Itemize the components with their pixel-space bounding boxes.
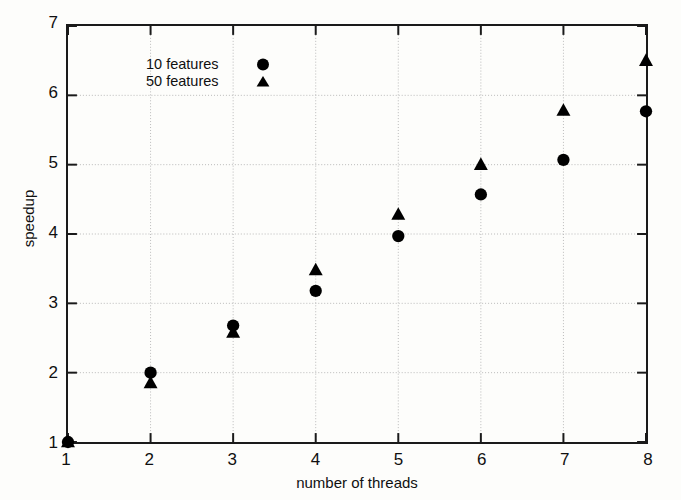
circle-marker-icon: [254, 56, 272, 73]
data-point: [556, 103, 570, 116]
legend-label: 50 features: [146, 73, 219, 90]
x-tick-label: 2: [129, 450, 169, 470]
chart-page: speedup 1234567 10 features50 features 1…: [0, 0, 681, 500]
data-point: [640, 105, 652, 117]
y-tick-label: 7: [12, 13, 58, 33]
x-tick-label: 7: [545, 450, 585, 470]
legend-label: 10 features: [146, 56, 219, 73]
data-point: [309, 263, 323, 276]
data-point: [474, 157, 488, 170]
data-point: [392, 230, 404, 242]
legend-item: 10 features: [146, 56, 278, 73]
y-tick-label: 6: [12, 83, 58, 103]
y-tick-label: 2: [12, 363, 58, 383]
data-point: [144, 376, 158, 389]
y-axis-tick-labels: 1234567: [0, 24, 58, 444]
data-point: [310, 285, 322, 297]
y-tick-label: 5: [12, 153, 58, 173]
x-tick-label: 5: [379, 450, 419, 470]
legend-item: 50 features: [146, 73, 278, 90]
plot-area: 10 features50 features: [66, 24, 648, 444]
x-tick-label: 4: [295, 450, 335, 470]
data-point: [557, 154, 569, 166]
x-tick-label: 3: [212, 450, 252, 470]
legend: 10 features50 features: [146, 56, 278, 90]
x-axis-tick-labels: 12345678: [66, 450, 648, 476]
y-tick-label: 4: [12, 223, 58, 243]
data-point: [639, 53, 653, 66]
triangle-marker-icon: [254, 73, 272, 90]
x-tick-label: 8: [628, 450, 668, 470]
x-tick-label: 6: [462, 450, 502, 470]
data-point: [475, 188, 487, 200]
x-tick-label: 1: [46, 450, 86, 470]
y-tick-label: 3: [12, 293, 58, 313]
data-point: [391, 207, 405, 220]
x-axis-title: number of threads: [66, 474, 648, 491]
